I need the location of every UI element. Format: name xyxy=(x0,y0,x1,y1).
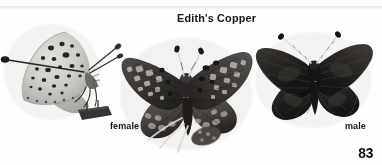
female-butterfly-illustration xyxy=(112,22,260,162)
plate-top-rule-secondary xyxy=(0,8,382,9)
field-guide-plate: Edith's Copper female male 83 xyxy=(0,0,382,165)
page-number: 83 xyxy=(358,144,373,161)
specimen-ventral-view xyxy=(0,14,124,134)
specimen-male xyxy=(249,18,379,134)
male-butterfly-illustration xyxy=(249,18,379,134)
label-female: female xyxy=(110,120,139,131)
label-male: male xyxy=(345,120,366,131)
plate-title: Edith's Copper xyxy=(177,12,256,24)
specimen-female xyxy=(112,22,260,162)
ventral-butterfly-illustration xyxy=(0,14,124,134)
antenna-club-left xyxy=(1,56,9,62)
